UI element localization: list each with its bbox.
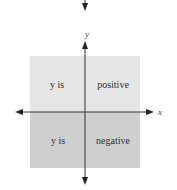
x-axis-left-arrow-icon: [15, 109, 23, 115]
upper-right-label: positive: [97, 80, 129, 90]
y-axis-down-arrow-icon: [82, 177, 88, 185]
y-axis-label: y: [85, 30, 89, 39]
x-axis-label: x: [158, 108, 162, 117]
upper-left-label: y is: [50, 80, 64, 90]
lower-left-label: y is: [51, 136, 65, 146]
y-axis-up-arrow-icon: [82, 41, 88, 49]
x-axis-right-arrow-icon: [146, 109, 154, 115]
lower-right-label: negative: [96, 136, 130, 146]
y-axis: [82, 41, 88, 185]
top-down-arrow-icon: [82, 0, 88, 11]
